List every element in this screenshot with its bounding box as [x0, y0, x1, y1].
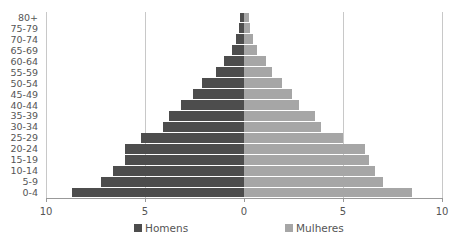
x-tick-label: 5 [328, 206, 358, 217]
y-axis-label: 45-49 [0, 89, 38, 100]
legend-label-homens: Homens [145, 222, 188, 234]
x-tick-label: 10 [427, 206, 449, 217]
bar-homens [141, 133, 244, 143]
bar-homens [113, 166, 244, 176]
bar-homens [193, 89, 244, 99]
gridline [442, 12, 443, 198]
x-tick [343, 198, 344, 202]
bar-mulheres [244, 23, 250, 33]
legend-mulheres: Mulheres [285, 222, 344, 234]
y-axis-label: 75-79 [0, 23, 38, 34]
y-axis-label: 50-54 [0, 78, 38, 89]
bar-homens [224, 56, 244, 66]
bar-mulheres [244, 144, 365, 154]
x-tick-label: 10 [31, 206, 61, 217]
y-axis-label: 40-44 [0, 100, 38, 111]
bar-homens [163, 122, 244, 132]
y-axis-label: 15-19 [0, 154, 38, 165]
bar-homens [216, 67, 244, 77]
bar-mulheres [244, 100, 299, 110]
y-axis-label: 35-39 [0, 110, 38, 121]
bar-mulheres [244, 34, 253, 44]
x-tick-label: 0 [229, 206, 259, 217]
bar-mulheres [244, 122, 321, 132]
y-axis-label: 80+ [0, 12, 38, 23]
bar-mulheres [244, 111, 315, 121]
bar-mulheres [244, 177, 383, 187]
x-tick [442, 198, 443, 202]
gridline [46, 12, 47, 198]
y-axis-label: 70-74 [0, 34, 38, 45]
y-axis-label: 20-24 [0, 143, 38, 154]
bar-mulheres [244, 56, 266, 66]
bar-mulheres [244, 133, 343, 143]
bar-mulheres [244, 89, 292, 99]
y-axis-label: 55-59 [0, 67, 38, 78]
bar-homens [181, 100, 244, 110]
bar-homens [125, 155, 244, 165]
legend-homens: Homens [134, 222, 188, 234]
bar-homens [236, 34, 244, 44]
bar-mulheres [244, 188, 412, 198]
y-axis-label: 0-4 [0, 187, 38, 198]
bar-homens [125, 144, 244, 154]
y-axis-label: 5-9 [0, 176, 38, 187]
bar-mulheres [244, 155, 369, 165]
bar-homens [72, 188, 244, 198]
legend-label-mulheres: Mulheres [296, 222, 344, 234]
y-axis-label: 65-69 [0, 45, 38, 56]
bar-homens [202, 78, 244, 88]
bar-mulheres [244, 45, 257, 55]
y-axis-label: 60-64 [0, 56, 38, 67]
y-axis-label: 30-34 [0, 121, 38, 132]
bar-mulheres [244, 67, 272, 77]
bar-homens [101, 177, 244, 187]
legend-swatch-homens [134, 224, 142, 232]
bar-homens [232, 45, 244, 55]
y-axis-label: 25-29 [0, 132, 38, 143]
x-tick [244, 198, 245, 202]
x-tick [145, 198, 146, 202]
bar-homens [169, 111, 244, 121]
x-tick-label: 5 [130, 206, 160, 217]
bar-mulheres [244, 78, 282, 88]
legend-swatch-mulheres [285, 224, 293, 232]
bar-mulheres [244, 166, 375, 176]
y-axis-label: 10-14 [0, 165, 38, 176]
bar-mulheres [244, 13, 249, 23]
x-tick [46, 198, 47, 202]
population-pyramid-chart: 0-45-910-1415-1920-2425-2930-3435-3940-4… [0, 0, 449, 240]
